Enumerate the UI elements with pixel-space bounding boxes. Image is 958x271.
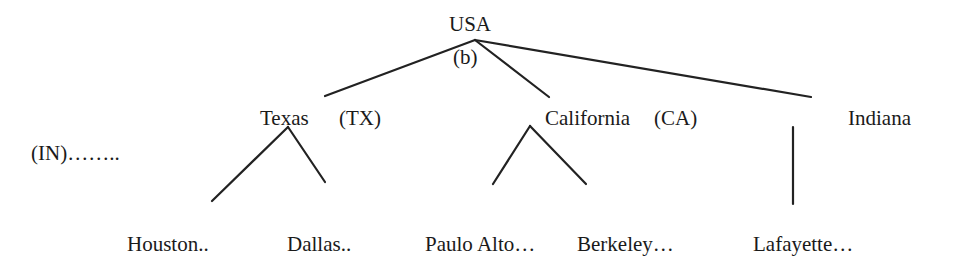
- node-berkeley: Berkeley…: [577, 234, 674, 255]
- node-paulo-alto: Paulo Alto…: [425, 234, 535, 255]
- tree-diagram: USA (b) Texas (TX) California (CA) India…: [0, 0, 958, 271]
- edge-usa-indiana: [475, 40, 811, 97]
- node-indiana: Indiana: [848, 108, 911, 129]
- node-usa: USA: [449, 14, 491, 35]
- node-lafayette: Lafayette…: [753, 234, 853, 255]
- node-california: California: [545, 108, 630, 129]
- node-usa-annotation: (b): [453, 47, 478, 68]
- edge-texas-houston: [212, 127, 288, 201]
- tree-edges: [0, 0, 958, 271]
- node-indiana-abbr: (IN)……..: [31, 143, 120, 164]
- node-dallas: Dallas..: [287, 234, 351, 255]
- node-houston: Houston..: [127, 234, 209, 255]
- node-texas-abbr: (TX): [339, 108, 381, 129]
- node-texas: Texas: [260, 108, 309, 129]
- edge-california-berkeley: [530, 126, 586, 184]
- edge-usa-california: [475, 40, 549, 97]
- edge-texas-dallas: [288, 127, 325, 182]
- node-california-abbr: (CA): [654, 108, 697, 129]
- edge-california-paulo-alto: [493, 126, 530, 184]
